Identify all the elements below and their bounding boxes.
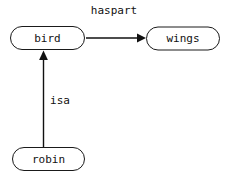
node-robin-label: robin xyxy=(32,153,65,166)
arrowhead-isa xyxy=(39,51,48,61)
edge-robin-isa-bird[interactable] xyxy=(39,51,48,148)
edge-label-isa: isa xyxy=(50,94,70,107)
arrowhead-haspart xyxy=(137,34,146,43)
edge-label-haspart: haspart xyxy=(91,4,137,17)
diagram-canvas: wings --> bird --> bird wings robin hasp… xyxy=(0,0,226,178)
node-robin[interactable]: robin xyxy=(13,148,85,171)
semantic-network-diagram: wings --> bird --> bird wings robin hasp… xyxy=(0,0,226,178)
node-bird[interactable]: bird xyxy=(11,27,85,50)
node-bird-label: bird xyxy=(34,32,61,45)
node-wings[interactable]: wings xyxy=(147,27,220,50)
node-wings-label: wings xyxy=(166,32,199,45)
edge-bird-haspart-wings[interactable] xyxy=(86,34,146,43)
